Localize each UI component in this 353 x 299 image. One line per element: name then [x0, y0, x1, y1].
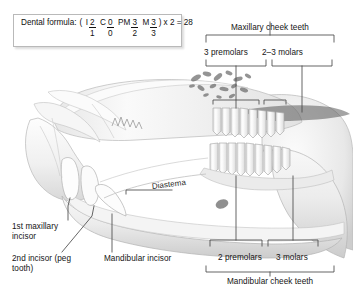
formula-group-premolar: PM 3 2	[118, 18, 139, 38]
dental-formula-label: Dental formula:	[21, 18, 77, 28]
formula-tag-M: M	[142, 18, 149, 28]
label-mandibular-incisor: Mandibular incisor	[104, 254, 174, 264]
label-1st-maxillary-incisor: 1st maxillary incisor	[12, 222, 84, 242]
open-paren: (	[80, 18, 83, 28]
dental-formula-box: Dental formula: ( I 2 1 C 0 0	[13, 14, 182, 47]
label-2-premolars: 2 premolars	[218, 253, 262, 263]
formula-fraction-C: 0 0	[107, 18, 114, 38]
formula-den-C: 0	[108, 28, 113, 38]
formula-multiplier: x 2 = 28	[164, 18, 193, 28]
formula-num-I: 2	[89, 18, 96, 28]
figure-canvas: Dental formula: ( I 2 1 C 0 0	[0, 0, 353, 299]
formula-fraction-M: 3 3	[150, 18, 157, 38]
close-paren: )	[159, 18, 162, 28]
formula-fraction-I: 2 1	[89, 18, 96, 38]
leader-1st-maxillary-incisor	[68, 198, 70, 220]
tick-upper-molar-group	[264, 100, 286, 104]
formula-group-molar: M 3 3	[142, 18, 157, 38]
bracket-2-3-molars	[272, 60, 332, 66]
formula-group-incisor: I 2 1	[86, 18, 97, 38]
formula-group-canine: C 0 0	[100, 18, 114, 38]
label-mandibular-cheek-teeth: Mandibular cheek teeth	[227, 277, 313, 287]
label-maxillary-cheek-teeth: Maxillary cheek teeth	[231, 23, 309, 33]
bracket-3-molars	[268, 240, 318, 246]
bracket-3-premolars	[206, 60, 266, 66]
formula-den-PM: 2	[132, 28, 137, 38]
formula-tag-C: C	[100, 18, 106, 28]
bracket-2-premolars	[210, 240, 262, 246]
bracket-maxillary-cheek-teeth	[206, 35, 334, 42]
formula-num-M: 3	[150, 18, 157, 28]
formula-fraction-PM: 3 2	[131, 18, 138, 38]
formula-den-M: 3	[151, 28, 156, 38]
label-2-3-molars: 2–3 molars	[262, 48, 303, 58]
label-3-molars: 3 molars	[276, 253, 308, 263]
bracket-mandibular-cheek-teeth	[206, 266, 334, 272]
label-2nd-incisor-peg-tooth: 2nd incisor (peg tooth)	[12, 254, 84, 274]
formula-num-C: 0	[107, 18, 114, 28]
formula-tag-I: I	[86, 18, 88, 28]
formula-num-PM: 3	[131, 18, 138, 28]
formula-tag-PM: PM	[118, 18, 130, 28]
formula-den-I: 1	[90, 28, 95, 38]
dental-formula-text: Dental formula: ( I 2 1 C 0 0	[21, 18, 177, 38]
label-3-premolars: 3 premolars	[204, 48, 248, 58]
bracket-incisor-row	[126, 190, 172, 194]
